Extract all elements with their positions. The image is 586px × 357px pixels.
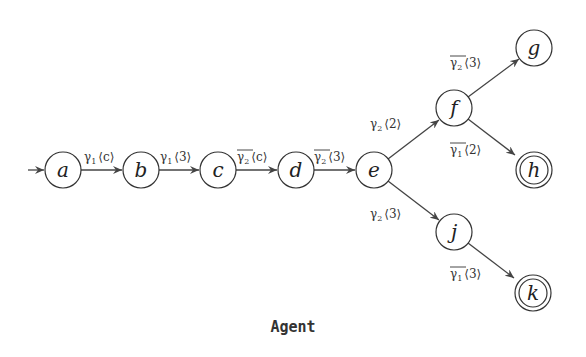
svg-text:γ2⟨3⟩: γ2⟨3⟩ bbox=[450, 56, 481, 72]
edge-label-j-k: γ1⟨3⟩ bbox=[450, 267, 481, 283]
node-j: j bbox=[436, 214, 472, 250]
node-b: b bbox=[123, 152, 159, 188]
svg-text:b: b bbox=[135, 158, 148, 182]
node-g: g bbox=[516, 30, 552, 66]
svg-text:γ2⟨3⟩: γ2⟨3⟩ bbox=[370, 207, 401, 223]
automaton-diagram: γ1⟨c⟩ γ1⟨3⟩ γ2⟨c⟩ γ2⟨3⟩ γ2⟨2⟩ γ2⟨3⟩ γ1⟨2… bbox=[0, 0, 586, 357]
svg-text:γ1⟨c⟩: γ1⟨c⟩ bbox=[84, 150, 114, 166]
svg-text:γ2⟨2⟩: γ2⟨2⟩ bbox=[370, 117, 401, 133]
svg-text:e: e bbox=[368, 158, 380, 182]
edge-label-f-h: γ1⟨2⟩ bbox=[450, 143, 481, 159]
svg-text:c: c bbox=[212, 158, 223, 182]
edge-label-e-j: γ2⟨3⟩ bbox=[370, 207, 401, 223]
node-h-accepting: h bbox=[516, 152, 552, 188]
svg-text:γ2⟨3⟩: γ2⟨3⟩ bbox=[314, 150, 345, 166]
edge-label-a-b: γ1⟨c⟩ bbox=[84, 150, 114, 166]
node-f: f bbox=[436, 90, 472, 126]
edge-label-e-f: γ2⟨2⟩ bbox=[370, 117, 401, 133]
edge-label-f-g: γ2⟨3⟩ bbox=[450, 56, 481, 72]
svg-text:a: a bbox=[57, 158, 69, 182]
svg-text:γ1⟨2⟩: γ1⟨2⟩ bbox=[450, 143, 481, 159]
diagram-caption: Agent bbox=[0, 318, 586, 336]
node-a: a bbox=[45, 152, 81, 188]
svg-text:h: h bbox=[528, 158, 541, 182]
svg-text:γ1⟨3⟩: γ1⟨3⟩ bbox=[160, 150, 191, 166]
svg-text:γ1⟨3⟩: γ1⟨3⟩ bbox=[450, 267, 481, 283]
edge-label-c-d: γ2⟨c⟩ bbox=[237, 150, 267, 166]
svg-text:d: d bbox=[290, 158, 303, 182]
svg-text:k: k bbox=[527, 281, 539, 305]
node-e: e bbox=[356, 152, 392, 188]
svg-text:g: g bbox=[528, 36, 541, 60]
edge-label-b-c: γ1⟨3⟩ bbox=[160, 150, 191, 166]
edge-label-d-e: γ2⟨3⟩ bbox=[314, 150, 345, 166]
svg-text:γ2⟨c⟩: γ2⟨c⟩ bbox=[237, 150, 267, 166]
node-c: c bbox=[200, 152, 236, 188]
node-d: d bbox=[278, 152, 314, 188]
node-k-accepting: k bbox=[515, 275, 551, 311]
